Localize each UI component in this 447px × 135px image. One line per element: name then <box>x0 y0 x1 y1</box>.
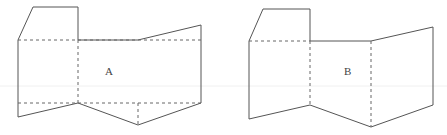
figure-b-top-tab-outline <box>249 9 310 41</box>
figure-a-right-outline <box>78 25 201 103</box>
figure-a: A <box>18 7 201 125</box>
figure-b: B <box>249 9 433 127</box>
figure-a-left-bottom-outline <box>18 40 201 125</box>
figure-b-left-bottom-outline <box>249 41 433 127</box>
figure-a-label: A <box>105 65 113 77</box>
net-diagram-canvas: A B <box>0 0 447 135</box>
figure-b-label: B <box>344 65 351 77</box>
figure-a-top-tab-outline <box>18 7 78 40</box>
